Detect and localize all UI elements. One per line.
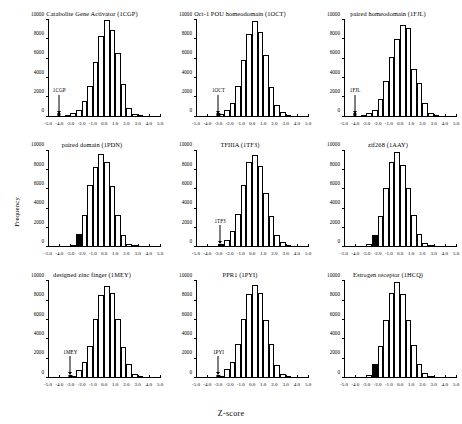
y-tick-label: 8000 — [182, 162, 192, 167]
x-tick-label: -5.0 — [192, 121, 200, 126]
x-tick-label: 1.0 — [408, 382, 414, 387]
x-tick-label: 5.0 — [453, 382, 459, 387]
native-zscore-marker — [217, 375, 220, 378]
y-tick-label: 4000 — [330, 332, 340, 337]
x-tick-label: 0.0 — [101, 382, 107, 387]
x-tick-label: 5.0 — [157, 121, 163, 126]
histogram-bars — [344, 20, 456, 117]
y-tick-label: 10000 — [179, 12, 192, 17]
panel: PPR1 (1PYI)0200040006000800010000-5.0-4.… — [166, 269, 314, 400]
panel: Catabolite Gene Activator (1CGP)02000400… — [18, 8, 166, 139]
x-tick-label: -4.0 — [55, 382, 63, 387]
histogram-bars — [196, 281, 308, 378]
x-tick-label: -4.0 — [203, 251, 211, 256]
histogram-bar — [138, 115, 144, 117]
histogram-bars — [196, 151, 308, 248]
x-tick-label: -4.0 — [203, 121, 211, 126]
x-tick-label: 2.0 — [419, 382, 425, 387]
annotation-label: 1MEY — [63, 350, 77, 355]
y-tick-label: 4000 — [34, 70, 44, 75]
y-tick-label: 10000 — [179, 143, 192, 148]
annotation-arrow-head — [353, 111, 357, 114]
x-tick-label: 0.0 — [397, 121, 403, 126]
histogram-bar — [286, 245, 292, 247]
x-tick-label: -4.0 — [203, 382, 211, 387]
histogram-bars — [48, 151, 160, 248]
annotation-arrow-line — [218, 356, 219, 373]
y-tick-label: 10000 — [327, 274, 340, 279]
x-tick-label: 2.0 — [271, 382, 277, 387]
x-tick-label: 0.0 — [397, 251, 403, 256]
x-tick-label: 4.0 — [146, 251, 152, 256]
y-tick-label: 2000 — [330, 90, 340, 95]
plot-area: 0200040006000800010000-5.0-4.0-3.0-2.0-1… — [48, 151, 160, 248]
x-tick-label: -2.0 — [374, 382, 382, 387]
y-tick-label: 6000 — [34, 51, 44, 56]
x-tick-label: -2.0 — [78, 121, 86, 126]
y-tick-label: 0 — [41, 370, 44, 375]
x-tick-label: -3.0 — [66, 382, 74, 387]
x-tick-label: 0.0 — [249, 121, 255, 126]
annotation-arrow-head — [68, 372, 72, 375]
panel: designed zinc finger (1MEY)0200040006000… — [18, 269, 166, 400]
x-tick-label: 4.0 — [146, 382, 152, 387]
histogram-bar — [138, 376, 144, 378]
x-tick-label: 3.0 — [134, 382, 140, 387]
y-tick-label: 2000 — [34, 351, 44, 356]
x-tick-label: 1.0 — [260, 251, 266, 256]
annotation-arrow-head — [216, 111, 220, 114]
histogram-bar — [434, 115, 440, 117]
x-axis-label: Z-score — [0, 409, 462, 418]
y-tick-label: 4000 — [182, 70, 192, 75]
x-tick-label: -4.0 — [55, 251, 63, 256]
x-tick-label: -1.0 — [89, 251, 97, 256]
panel: Estrogen receptor (1HCQ)0200040006000800… — [314, 269, 462, 400]
x-tick-label: 1.0 — [408, 121, 414, 126]
y-tick-label: 6000 — [182, 312, 192, 317]
histogram-bar — [428, 245, 434, 247]
x-tick-label: -5.0 — [192, 382, 200, 387]
annotation-arrow-line — [218, 95, 219, 112]
x-tick-label: -1.0 — [385, 121, 393, 126]
x-tick-label: -5.0 — [192, 251, 200, 256]
annotation-arrow-head — [216, 372, 220, 375]
x-tick-label: -5.0 — [44, 382, 52, 387]
x-tick-label: -2.0 — [78, 382, 86, 387]
native-zscore-marker — [218, 244, 221, 247]
histogram-bar — [132, 245, 138, 247]
y-tick-label: 4000 — [330, 201, 340, 206]
x-tick-label: 1.0 — [112, 382, 118, 387]
y-tick-label: 0 — [337, 109, 340, 114]
x-tick-label: 3.0 — [282, 251, 288, 256]
x-tick-label: 4.0 — [442, 121, 448, 126]
annotation-arrow-head — [57, 111, 61, 114]
x-tick — [160, 114, 161, 117]
plot-area: 0200040006000800010000-5.0-4.0-3.0-2.0-1… — [344, 20, 456, 117]
y-tick-label: 10000 — [327, 12, 340, 17]
x-tick-label: -3.0 — [214, 121, 222, 126]
native-zscore-marker — [58, 113, 61, 116]
x-tick-label: 5.0 — [305, 251, 311, 256]
native-zscore-marker — [354, 113, 357, 116]
x-tick-label: -5.0 — [44, 251, 52, 256]
x-tick — [456, 375, 457, 378]
y-tick-label: 2000 — [330, 351, 340, 356]
histogram-bar — [286, 376, 292, 378]
x-tick-label: 4.0 — [146, 121, 152, 126]
x-tick-label: -2.0 — [226, 382, 234, 387]
x-tick-label: 3.0 — [430, 382, 436, 387]
x-tick-label: 2.0 — [419, 121, 425, 126]
annotation-label: 1CGP — [53, 88, 66, 93]
y-tick-label: 0 — [337, 240, 340, 245]
x-tick-label: 2.0 — [271, 121, 277, 126]
figure-root: Frequency Catabolite Gene Activator (1CG… — [0, 0, 462, 424]
x-tick-label: 4.0 — [442, 382, 448, 387]
y-tick-label: 8000 — [34, 162, 44, 167]
x-tick-label: -3.0 — [66, 251, 74, 256]
y-tick-label: 0 — [337, 370, 340, 375]
x-tick-label: -5.0 — [340, 382, 348, 387]
y-tick-label: 2000 — [34, 220, 44, 225]
native-zscore-marker — [217, 113, 220, 116]
plot-area: 0200040006000800010000-5.0-4.0-3.0-2.0-1… — [196, 151, 308, 248]
y-tick-label: 0 — [189, 109, 192, 114]
